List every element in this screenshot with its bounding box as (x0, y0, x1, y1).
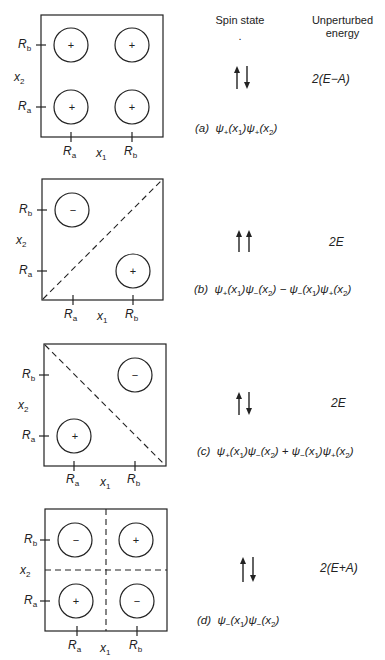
configuration-plot-a: + + + + (0, 0, 190, 170)
tick-label-rb: Rb (24, 532, 37, 548)
energy-value: 2E (331, 396, 346, 410)
svg-text:−: − (70, 204, 76, 216)
configuration-plot-b: − + (0, 170, 190, 330)
svg-text:+: + (129, 39, 135, 51)
wavefunction-label: (d) ψ−(x1)ψ−(x2) (197, 614, 279, 629)
x-axis-label: x1 (100, 475, 110, 491)
lobe-plus: + (116, 254, 150, 288)
y-axis-label: x2 (16, 233, 26, 249)
spin-arrows-up-down (238, 557, 258, 583)
energy-value: 2(E−A) (312, 72, 350, 86)
tick-label-rb: Rb (19, 202, 32, 218)
y-axis-label: x2 (14, 70, 24, 86)
svg-text:−: − (134, 595, 140, 607)
lobe-plus: + (54, 90, 88, 124)
tick-label-ra: Ra (18, 99, 31, 115)
svg-text:−: − (73, 534, 79, 546)
svg-text:+: + (68, 39, 74, 51)
tick-label-rb: Rb (22, 367, 35, 383)
svg-text:+: + (73, 595, 79, 607)
y-axis-label: x2 (20, 563, 30, 579)
tick-label-ra-x: Ra (66, 472, 79, 488)
x-axis-label: x1 (97, 309, 107, 325)
lobe-minus: − (120, 584, 154, 618)
spin-arrows-up-up (234, 230, 254, 252)
tick-label-ra: Ra (24, 593, 37, 609)
lobe-plus: + (59, 584, 93, 618)
svg-text:+: + (133, 534, 139, 546)
svg-text:+: + (129, 101, 135, 113)
energy-value: 2(E+A) (320, 561, 358, 575)
spin-arrows-up-down (234, 392, 254, 416)
configuration-plot-c: − + (0, 330, 190, 490)
tick-label-ra: Ra (19, 263, 32, 279)
tick-label-rb-x: Rb (129, 638, 142, 654)
tick-label-rb-x: Rb (124, 144, 137, 160)
spin-state-dot: . (235, 30, 245, 43)
tick-label-rb: Rb (18, 37, 31, 53)
lobe-minus: − (118, 358, 152, 392)
x-axis-label: x1 (100, 641, 110, 657)
svg-text:+: + (69, 101, 75, 113)
tick-label-rb-x: Rb (125, 307, 138, 323)
lobe-plus: + (115, 90, 149, 124)
tick-label-ra: Ra (22, 428, 35, 444)
wavefunction-label: (b) ψ+(x1)ψ−(x2) − ψ−(x1)ψ+(x2) (194, 283, 351, 298)
lobe-plus: + (54, 28, 88, 62)
svg-text:+: + (72, 430, 78, 442)
lobe-plus: + (57, 419, 91, 453)
lobe-plus: + (115, 28, 149, 62)
wavefunction-label: (c) ψ+(x1)ψ−(x2) + ψ−(x1)ψ+(x2) (197, 445, 354, 460)
spin-arrows-up-down (232, 66, 252, 90)
lobe-plus: + (119, 523, 153, 557)
lobe-minus: − (58, 523, 92, 557)
energy-header: Unperturbed energy (300, 14, 385, 40)
svg-text:−: − (132, 369, 138, 381)
energy-value: 2E (329, 235, 344, 249)
tick-label-ra-x: Ra (68, 638, 81, 654)
energy-header-line2: energy (300, 27, 385, 40)
tick-label-ra-x: Ra (64, 307, 77, 323)
svg-text:+: + (130, 265, 136, 277)
tick-label-ra-x: Ra (63, 144, 76, 160)
lobe-minus: − (55, 193, 89, 227)
x-axis-label: x1 (96, 146, 106, 162)
tick-label-rb-x: Rb (127, 472, 140, 488)
y-axis-label: x2 (18, 398, 28, 414)
wavefunction-label: (a) ψ+(x1)ψ+(x2) (195, 122, 277, 137)
energy-header-line1: Unperturbed (300, 14, 385, 27)
spin-state-header: Spin state (205, 14, 275, 27)
